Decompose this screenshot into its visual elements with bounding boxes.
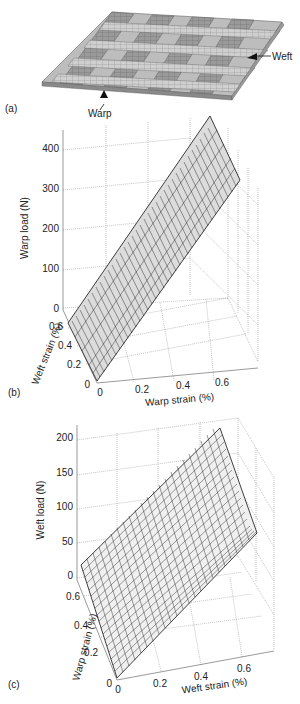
svg-text:0: 0 — [97, 387, 103, 398]
svg-text:100: 100 — [42, 263, 59, 274]
panel-a-fabric — [42, 12, 284, 110]
panel-c-chart — [77, 418, 274, 680]
panel-c-xlabel: Weft strain (%) — [181, 675, 248, 695]
svg-text:200: 200 — [56, 432, 73, 443]
panel-b-zlabel: Warp load (N) — [19, 197, 30, 259]
weft-annotation: Weft — [272, 51, 293, 62]
svg-text:300: 300 — [42, 183, 59, 194]
svg-text:0.6: 0.6 — [66, 591, 80, 602]
svg-text:0: 0 — [67, 570, 73, 581]
figure-canvas: Weft Warp (a) — [0, 0, 300, 704]
panel-b-xlabel: Warp strain (%) — [145, 391, 215, 408]
svg-text:0.4: 0.4 — [176, 380, 190, 391]
svg-text:0: 0 — [53, 303, 59, 314]
svg-text:200: 200 — [42, 223, 59, 234]
svg-text:0.6: 0.6 — [215, 377, 229, 388]
svg-text:0.2: 0.2 — [153, 678, 167, 689]
svg-text:150: 150 — [56, 467, 73, 478]
warp-annotation: Warp — [88, 108, 112, 119]
svg-text:0.2: 0.2 — [67, 359, 81, 370]
svg-text:0.4: 0.4 — [58, 340, 72, 351]
panel-b-label: (b) — [8, 387, 20, 398]
svg-text:0: 0 — [115, 684, 121, 695]
panel-c-label: (c) — [8, 679, 20, 690]
svg-text:400: 400 — [42, 143, 59, 154]
svg-text:0: 0 — [84, 379, 90, 390]
svg-text:50: 50 — [62, 536, 74, 547]
panel-a-label: (a) — [5, 103, 17, 114]
panel-b-zticks: 400 300 200 100 0 — [42, 143, 59, 314]
panel-c-zticks: 200 150 100 50 0 — [56, 432, 73, 581]
panel-c-zlabel: Weft load (N) — [35, 481, 46, 540]
svg-text:0.6: 0.6 — [237, 663, 251, 674]
panel-b-chart — [63, 116, 258, 383]
svg-text:100: 100 — [56, 501, 73, 512]
panel-b-ylabel: Weft strain (%) — [29, 321, 64, 386]
svg-text:0.2: 0.2 — [135, 384, 149, 395]
svg-text:0: 0 — [106, 678, 112, 689]
